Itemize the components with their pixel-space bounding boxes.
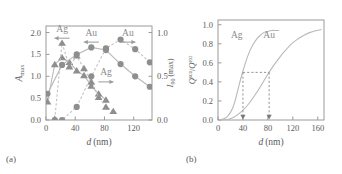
panel-a-xtick-label: 80 xyxy=(100,123,109,133)
panel-a-annotation-label: Ag xyxy=(100,67,112,77)
panel-a-ytick-label-right: 0.0 xyxy=(157,115,168,125)
panel-b-series-line xyxy=(223,30,322,120)
panel-a-series-line xyxy=(47,47,149,93)
panel-b-xtick-label: 80 xyxy=(264,123,273,133)
panel-a-caption: (a) xyxy=(6,154,16,164)
panel-b-ytick-label: 0.8 xyxy=(202,39,213,49)
panel-a-ytick-label-left: 1.5 xyxy=(30,49,41,59)
panel-b-ytick-label: 0.2 xyxy=(202,96,213,106)
panel-a-annotation-arrowhead xyxy=(84,40,88,44)
panel-a-ytick-label-left: 0.0 xyxy=(30,115,41,125)
panel-b-ytick-label: 0.4 xyxy=(202,77,213,87)
panel-a-yaxis-label-right: I90 (max) xyxy=(165,58,176,88)
panel-a-data-point xyxy=(117,61,123,67)
panel-a-annotation-arrowhead xyxy=(131,40,135,44)
panel-b-annotation-label: Ag xyxy=(231,30,243,40)
panel-b-xtick-label: 120 xyxy=(286,123,299,133)
panel-a-annotation-label: Au xyxy=(86,28,98,38)
panel-a-data-point xyxy=(80,65,88,71)
panel-b-xtick-label: 0 xyxy=(216,123,220,133)
panel-a-ytick-label-right: 1.0 xyxy=(157,28,168,38)
panel-a-data-point xyxy=(102,103,110,109)
panel-a-data-point xyxy=(109,108,117,114)
panel-b-xaxis-label: d(nm) xyxy=(258,137,283,148)
panel-a-data-point xyxy=(58,39,66,45)
panel-a-ytick-label-left: 2.0 xyxy=(30,28,41,38)
panel-a-data-point xyxy=(132,73,138,79)
panel-b-xtick-label: 40 xyxy=(239,123,248,133)
panel-b-series-line xyxy=(219,30,279,120)
panel-a-data-point xyxy=(59,117,65,123)
panel-a-annotation-label: Ag xyxy=(56,24,68,34)
panel-a-data-point xyxy=(147,84,153,90)
panel-a-xtick-label: 40 xyxy=(71,123,80,133)
panel-a-data-point xyxy=(74,51,80,57)
panel-a-annotation-arrowhead xyxy=(55,36,59,40)
panel-a-xtick-label: 0 xyxy=(44,123,48,133)
panel-b-ytick-label: 0.0 xyxy=(202,115,213,125)
panel-a-data-point xyxy=(147,59,153,65)
panel-a-annotation-arrowhead xyxy=(109,80,113,84)
panel-a-data-point xyxy=(80,72,88,78)
panel-a-data-point xyxy=(58,54,66,60)
panel-a-ytick-label-left: 0.5 xyxy=(30,93,41,103)
panel-a-data-point xyxy=(44,91,50,97)
panel-a-data-point xyxy=(44,98,52,104)
panel-b-annotation-label: Au xyxy=(263,30,275,40)
panel-a-data-point xyxy=(95,94,103,100)
panel-b-crossing-arrowhead xyxy=(267,115,272,120)
panel-a-ytick-label-left: 1.0 xyxy=(30,71,41,81)
panel-a-data-point xyxy=(74,104,80,110)
panel-b-xtick-label: 160 xyxy=(311,123,324,133)
panel-b-ytick-label: 0.6 xyxy=(202,58,213,68)
panel-a-data-point xyxy=(103,45,109,51)
panel-a-data-point xyxy=(52,117,58,123)
panel-b-caption: (b) xyxy=(186,154,197,164)
panel-a-data-point xyxy=(88,44,94,50)
panel-a-data-point xyxy=(132,46,138,52)
panel-b-yaxis-label: Qsca/Qext xyxy=(187,55,197,84)
panel-a-annotation-label: Au xyxy=(122,28,134,38)
panel-a-xaxis-label: d(nm) xyxy=(86,137,111,148)
panel-a-yaxis-label-left: Amax xyxy=(14,64,25,83)
panel-a-data-point xyxy=(59,62,65,68)
panel-b: 040801201600.00.20.40.60.81.0d(nm)Qsca/Q… xyxy=(178,0,342,174)
panel-b-crossing-arrowhead xyxy=(240,115,245,120)
figure-container: 040801200.00.51.01.52.00.00.51.0d(nm)Ama… xyxy=(0,0,342,174)
panel-a-xtick-label: 120 xyxy=(127,123,140,133)
panel-a-data-point xyxy=(88,73,94,79)
panel-a: 040801200.00.51.01.52.00.00.51.0d(nm)Ama… xyxy=(0,0,178,174)
panel-b-plot: 040801201600.00.20.40.60.81.0d(nm)Qsca/Q… xyxy=(178,0,342,174)
panel-b-ytick-label: 1.0 xyxy=(202,20,213,30)
panel-a-plot: 040801200.00.51.01.52.00.00.51.0d(nm)Ama… xyxy=(0,0,178,174)
